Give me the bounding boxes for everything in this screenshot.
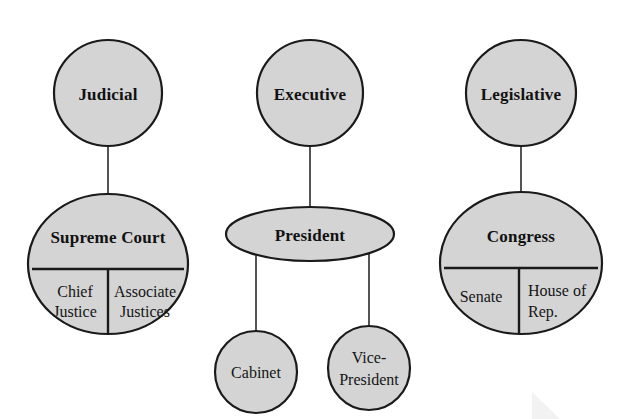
label-cabinet: Cabinet [231, 364, 281, 381]
label-associate-justices-line2: Justices [120, 303, 170, 320]
node-congress-group[interactable]: Congress Senate House of Rep. [440, 192, 602, 334]
label-house-of-rep-line1: House of [528, 282, 587, 299]
node-supreme-court-group[interactable]: Supreme Court Chief Justice Associate Ju… [28, 194, 188, 334]
diagram-canvas: Judicial Supreme Court Chief Justice Ass… [0, 0, 627, 419]
label-associate-justices-line1: Associate [114, 283, 176, 300]
node-vice-president[interactable] [328, 326, 410, 410]
label-supreme-court: Supreme Court [50, 228, 165, 247]
scan-artifact [532, 392, 560, 419]
label-vice-president-line2: President [339, 371, 399, 388]
label-senate: Senate [460, 288, 503, 305]
label-chief-justice-line1: Chief [57, 283, 93, 300]
label-president: President [275, 226, 346, 245]
label-legislative: Legislative [481, 85, 562, 104]
government-branches-diagram: Judicial Supreme Court Chief Justice Ass… [0, 0, 627, 419]
label-chief-justice-line2: Justice [53, 303, 97, 320]
label-vice-president-line1: Vice- [352, 349, 387, 366]
label-judicial: Judicial [78, 85, 137, 104]
label-executive: Executive [274, 85, 347, 104]
node-congress[interactable] [440, 192, 602, 334]
label-house-of-rep-line2: Rep. [528, 303, 558, 321]
label-congress: Congress [487, 227, 556, 246]
